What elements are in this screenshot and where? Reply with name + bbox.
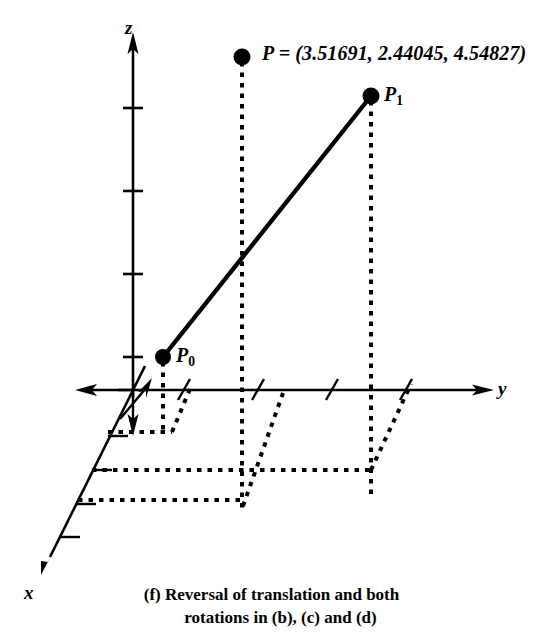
point-marker-P0 — [155, 349, 171, 365]
point-marker-P — [234, 49, 251, 66]
diagram-background — [0, 0, 543, 639]
coordinate-diagram — [0, 0, 543, 639]
figure-caption-line-2: rotations in (b), (c) and (d) — [0, 607, 543, 630]
figure-caption: (f) Reversal of translation and both rot… — [0, 584, 543, 630]
point-label-P0: P0 — [176, 345, 195, 368]
point-label-P1-base: P — [384, 83, 396, 105]
point-label-P0-subscript: 0 — [188, 354, 195, 369]
point-label-P1: P1 — [384, 84, 403, 107]
point-label-P0-base: P — [176, 344, 188, 366]
figure-caption-line-1: (f) Reversal of translation and both — [0, 584, 543, 607]
point-label-P: P = (3.51691, 2.44045, 4.54827) — [262, 43, 526, 63]
point-marker-P1 — [363, 88, 380, 105]
z-axis-label: z — [125, 18, 132, 37]
y-axis-label: y — [498, 379, 506, 398]
point-label-P1-subscript: 1 — [396, 93, 403, 108]
figure-container: z y x P = (3.51691, 2.44045, 4.54827) P0… — [0, 0, 543, 639]
